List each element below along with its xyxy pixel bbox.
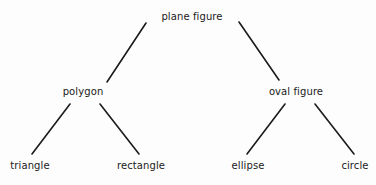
node-rectangle: rectangle <box>117 161 165 171</box>
edge-plane-figure-to-oval-figure <box>239 22 279 80</box>
edge-oval-figure-to-circle <box>315 104 354 154</box>
node-polygon: polygon <box>63 87 104 97</box>
node-plane-figure: plane figure <box>161 12 222 22</box>
node-ellipse: ellipse <box>232 161 265 171</box>
edge-polygon-to-rectangle <box>100 104 139 154</box>
edge-oval-figure-to-ellipse <box>247 104 285 154</box>
node-circle: circle <box>341 161 368 171</box>
edge-plane-figure-to-polygon <box>107 23 146 82</box>
node-triangle: triangle <box>10 161 49 171</box>
node-oval-figure: oval figure <box>269 87 323 97</box>
tree-diagram: plane figure polygon oval figure triangl… <box>0 0 376 185</box>
edge-polygon-to-triangle <box>32 104 70 154</box>
